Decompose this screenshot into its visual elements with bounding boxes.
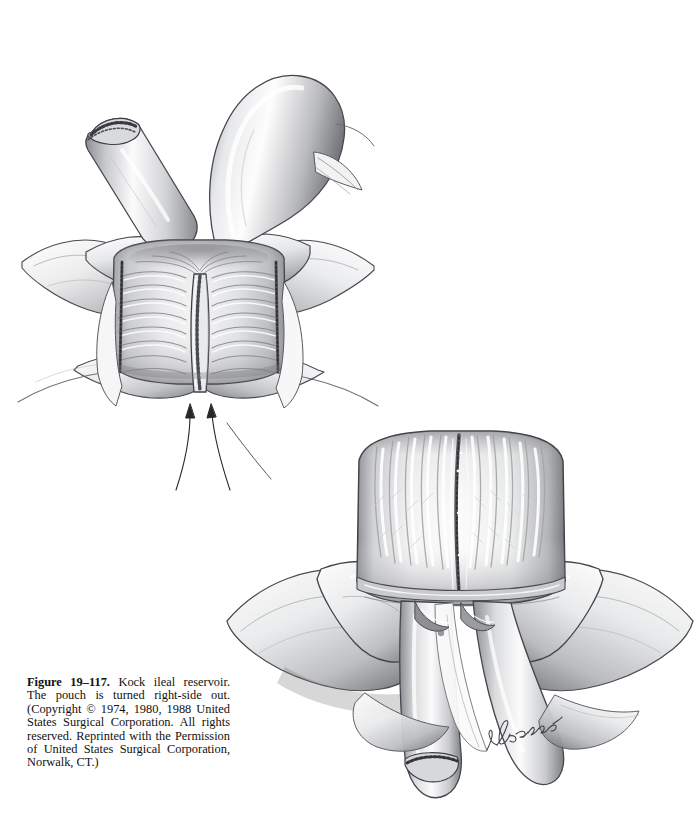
arrow-left-shaft [176,414,190,490]
figure-page: Figure 19–117. Kock ileal reservoir. The… [0,0,698,821]
figure-caption-text: Kock ileal reservoir. The pouch is turne… [27,675,230,769]
mesenteric-edge-line [227,423,271,479]
kock-pouch-body [112,240,286,392]
efferent-limb-stump [86,118,197,251]
arrow-right-head [207,404,216,418]
illustration-kock-pouch-serosal-view [18,30,378,420]
illustration-kock-pouch-mucosal-view [225,405,695,805]
figure-caption: Figure 19–117. Kock ileal reservoir. The… [27,676,230,770]
artist-signature [483,712,563,758]
kock-pouch-mucosal-body [357,431,565,606]
annotation-arrows [176,404,230,490]
arrow-left-head [186,404,195,418]
afferent-ileal-loop [210,75,374,254]
figure-caption-label: Figure 19–117. [27,675,110,689]
